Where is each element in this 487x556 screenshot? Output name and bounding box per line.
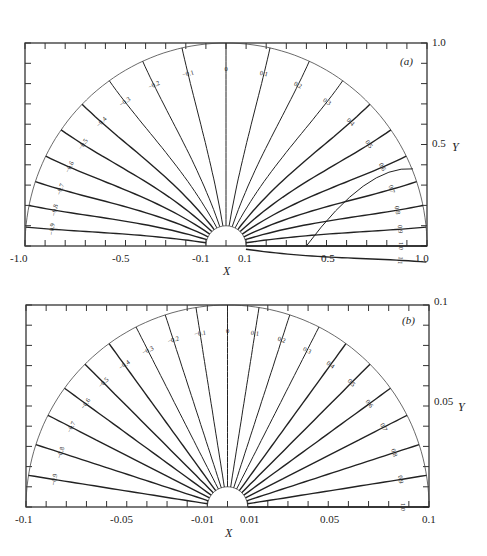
contour-label: 0.7 <box>379 422 389 433</box>
a-xtick-m01: -0.1 <box>192 252 209 264</box>
contour-label: 0.8 <box>393 205 402 214</box>
a-ytick-top: 1.0 <box>432 36 446 48</box>
a-xtick-p05: 0.5 <box>321 252 335 264</box>
contour-label: 0.9 <box>397 225 405 234</box>
b-ytick-top: 0.1 <box>434 295 448 307</box>
b-xtick-m1: -0.1 <box>15 513 32 525</box>
contour-label: −0.7 <box>65 419 77 433</box>
a-xtick-m1: -1.0 <box>10 252 28 264</box>
contour-label: −0.5 <box>76 137 89 151</box>
contour-label: −0.7 <box>55 182 66 196</box>
contour-label: −0.3 <box>141 344 155 356</box>
contour-label: −0.6 <box>79 396 92 410</box>
contour-label: −0.9 <box>49 473 58 486</box>
figure: −0.9−0.8−0.7−0.6−0.5−0.4−0.3−0.2−0.100.1… <box>0 0 487 556</box>
contour-label: 0.9 <box>397 475 405 484</box>
contour-label: 0.5 <box>364 139 374 150</box>
panel-a: −0.9−0.8−0.7−0.6−0.5−0.4−0.3−0.2−0.100.1… <box>25 43 427 265</box>
contour-label: 1.1 <box>397 256 405 265</box>
contour-label: −0.1 <box>194 329 207 338</box>
contour-label: 0.6 <box>378 162 388 173</box>
a-xtick-p01: 0.1 <box>238 252 252 264</box>
contour-label: −0.2 <box>167 334 180 344</box>
contour-label: 0.7 <box>387 184 396 195</box>
b-xtick-p01: 0.01 <box>240 513 259 525</box>
b-ylabel: Y <box>458 400 466 414</box>
b-xtick-m05: -0.05 <box>110 513 133 525</box>
b-ytick-mid: 0.05 <box>434 395 454 407</box>
contour-label: 0.3 <box>302 345 312 355</box>
a-xlabel: X <box>222 264 231 278</box>
panel-b: −0.9−0.8−0.7−0.6−0.5−0.4−0.3−0.2−0.100.1… <box>26 305 429 511</box>
contour-label: 0.1 <box>259 69 268 78</box>
contour-label: 0.2 <box>277 335 287 344</box>
b-xtick-p1: 0.1 <box>422 513 436 525</box>
a-ytick-mid: 0.5 <box>432 137 446 149</box>
contour-label: 1.0 <box>400 503 407 511</box>
contour-label: 0 <box>226 327 229 334</box>
b-xtick-m01: -0.01 <box>191 513 214 525</box>
contour-label: −0.6 <box>63 159 75 173</box>
b-xtick-p05: 0.05 <box>320 513 340 525</box>
contour-label: 0.2 <box>293 80 303 90</box>
contour-label: −0.4 <box>117 358 131 371</box>
b-xlabel: X <box>224 526 233 540</box>
contour-label: 1.0 <box>398 242 405 250</box>
contour-label: −0.8 <box>55 446 65 459</box>
contour-label: −0.2 <box>147 79 161 90</box>
b-panel-label: (b) <box>402 314 415 327</box>
a-ylabel: Y <box>452 140 460 154</box>
a-panel-label: (a) <box>400 55 413 68</box>
contour-label: 0.8 <box>390 448 399 458</box>
contour-label: 0.1 <box>250 329 259 337</box>
contour-label: −0.1 <box>181 68 194 77</box>
contour-label: 0.3 <box>322 96 333 106</box>
contour-label: −0.3 <box>118 95 132 108</box>
a-xtick-m05: -0.5 <box>112 252 130 264</box>
contour-label: −0.8 <box>50 204 59 217</box>
a-xtick-p1: 1.0 <box>415 252 429 264</box>
contour-label: −0.9 <box>47 223 55 235</box>
contour-label: 0 <box>224 65 227 72</box>
